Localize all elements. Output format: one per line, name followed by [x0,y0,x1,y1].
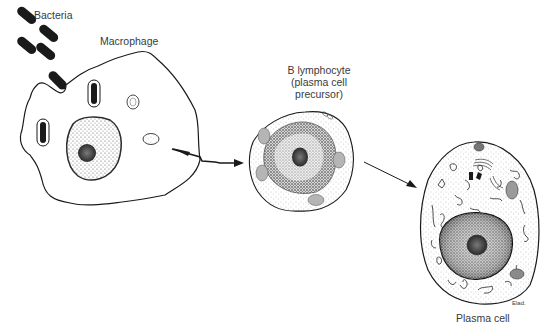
macrophage-cell [20,51,200,204]
b-lymphocyte-cell [249,111,353,211]
label-b-lymphocyte-line3: precursor) [269,88,369,100]
plasma-cell [421,142,539,304]
diagram-canvas [0,0,556,331]
label-b-lymphocyte: B lymphocyte (plasma cell precursor) [269,64,369,100]
arrow-b-cell-to-plasma-cell [364,162,417,188]
label-macrophage: Macrophage [100,35,158,47]
label-plasma-cell: Plasma cell [456,312,510,324]
label-b-lymphocyte-line2: (plasma cell [269,76,369,88]
label-bacteria: Bacteria [34,9,73,21]
artist-signature: Elad. [512,297,526,309]
label-b-lymphocyte-line1: B lymphocyte [269,64,369,76]
